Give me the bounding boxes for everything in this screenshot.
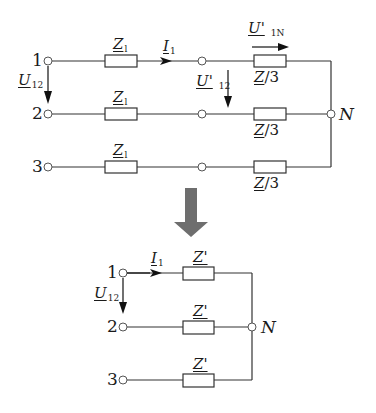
terminal-node-1	[44, 57, 52, 65]
lower-line-voltage-label: U12	[94, 286, 119, 303]
circuit-diagram: 1 2 3 Zl Zl Zl I1 U12 U'1N U'12 Z/3 Z/3 …	[0, 0, 376, 413]
line-impedance-label-2: Zl	[113, 90, 127, 107]
neutral-node	[327, 110, 335, 118]
line-impedance-1	[105, 55, 137, 67]
mid-node-3	[198, 163, 206, 171]
terminal-node-3	[44, 163, 52, 171]
load-impedance-label-2: Z/3	[254, 123, 279, 138]
transformed-line-voltage-label: U'12	[196, 74, 230, 91]
mid-node-1	[198, 57, 206, 65]
lower-terminal-label-1: 1	[107, 264, 118, 281]
current-label: I1	[163, 39, 176, 56]
lower-neutral-label: N	[261, 319, 276, 336]
lower-current-label: I1	[151, 251, 164, 268]
load-impedance-label-3: Z/3	[254, 176, 279, 191]
lower-terminal-label-2: 2	[107, 318, 118, 335]
voltage-arrow-icon	[44, 91, 52, 104]
transition-arrow-icon	[174, 188, 208, 237]
lower-neutral-node	[248, 323, 256, 331]
load-impedance-1	[254, 55, 286, 67]
terminal-node-2	[44, 110, 52, 118]
line-impedance-2	[105, 108, 137, 120]
phase-voltage-arrow-icon	[278, 43, 289, 51]
phase-voltage-label: U'1N	[248, 21, 284, 38]
lower-terminal-node-2	[119, 323, 127, 331]
line-impedance-label-3: Zl	[113, 143, 127, 160]
lower-terminal-node-1	[119, 269, 127, 277]
equiv-impedance-2	[183, 321, 214, 334]
equiv-impedance-3	[183, 374, 214, 387]
lower-terminal-node-3	[119, 376, 127, 384]
transformed-voltage-arrow-icon	[224, 96, 232, 108]
line-impedance-label-1: Zl	[113, 37, 127, 54]
mid-node-2	[198, 110, 206, 118]
terminal-label-3: 3	[32, 158, 43, 175]
load-impedance-label-1: Z/3	[254, 70, 279, 85]
neutral-label: N	[339, 106, 354, 123]
equiv-impedance-label-2: Z'	[193, 304, 208, 319]
terminal-label-1: 1	[32, 52, 43, 69]
line-impedance-3	[105, 161, 137, 173]
equiv-impedance-1	[183, 267, 214, 280]
terminal-label-2: 2	[32, 105, 43, 122]
lower-terminal-label-3: 3	[107, 371, 118, 388]
circuit-schematic	[0, 0, 376, 413]
load-impedance-3	[254, 161, 286, 173]
equiv-impedance-label-3: Z'	[193, 357, 208, 372]
equiv-impedance-label-1: Z'	[193, 250, 208, 265]
load-impedance-2	[254, 108, 286, 120]
lower-voltage-arrow-icon	[119, 302, 127, 314]
line-voltage-label: U12	[18, 73, 43, 90]
